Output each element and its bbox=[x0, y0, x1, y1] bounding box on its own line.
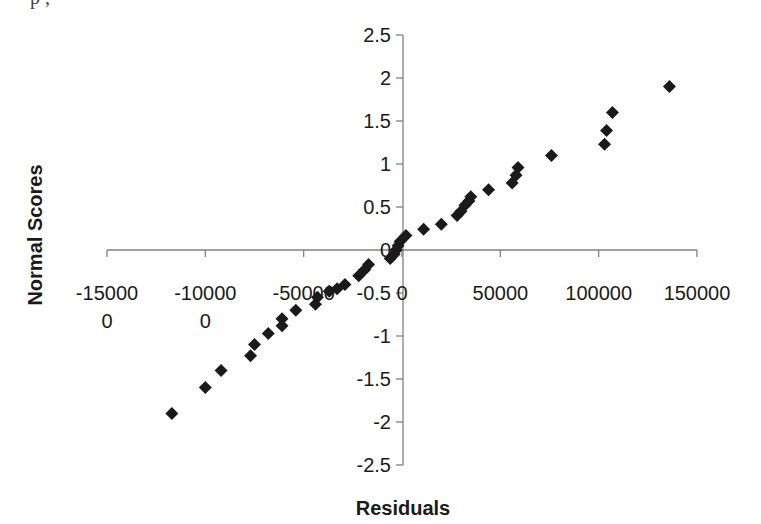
diamond-marker bbox=[289, 304, 302, 317]
diamond-marker bbox=[244, 349, 257, 362]
diamond-marker bbox=[199, 381, 212, 394]
diamond-marker bbox=[215, 364, 228, 377]
diamond-marker bbox=[482, 183, 495, 196]
x-axis-title: Residuals bbox=[356, 497, 450, 519]
diamond-marker bbox=[262, 327, 275, 340]
x-tick-label: 100000 bbox=[565, 282, 632, 304]
diamond-marker bbox=[598, 138, 611, 151]
x-tick-label: 150000 bbox=[664, 282, 731, 304]
x-tick-label: -100000 bbox=[174, 282, 236, 332]
y-tick-label: 1.5 bbox=[363, 110, 391, 132]
diamond-marker bbox=[417, 223, 430, 236]
y-axis-title: Normal Scores bbox=[24, 164, 46, 305]
y-tick-label: -2 bbox=[373, 411, 391, 433]
y-tick-label: -0.5 bbox=[357, 282, 391, 304]
x-tick-label: 0 bbox=[396, 282, 407, 304]
diamond-marker bbox=[545, 149, 558, 162]
y-tick-label: -1.5 bbox=[357, 368, 391, 390]
y-tick-label: 2.5 bbox=[363, 24, 391, 46]
diamond-marker bbox=[165, 407, 178, 420]
scatter-plot: -150000-100000-500000500001000001500002.… bbox=[0, 0, 761, 524]
y-tick-label: -2.5 bbox=[357, 454, 391, 476]
y-tick-label: 0.5 bbox=[363, 196, 391, 218]
diamond-marker bbox=[435, 218, 448, 231]
diamond-marker bbox=[276, 312, 289, 325]
diamond-marker bbox=[600, 124, 613, 137]
y-tick-label: 1 bbox=[380, 153, 391, 175]
x-tick-label: -150000 bbox=[76, 282, 138, 332]
y-tick-label: -1 bbox=[373, 325, 391, 347]
x-tick-label: 50000 bbox=[473, 282, 529, 304]
diamond-marker bbox=[248, 338, 261, 351]
y-tick-label: 2 bbox=[380, 67, 391, 89]
diamond-marker bbox=[606, 106, 619, 119]
diamond-marker bbox=[663, 80, 676, 93]
